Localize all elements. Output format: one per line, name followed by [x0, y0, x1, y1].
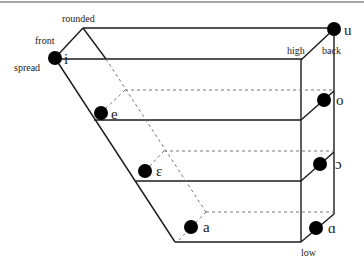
- vowel-dot-u: [327, 22, 341, 36]
- vowel-dot-a: [184, 220, 198, 234]
- vowel-dot-open-e: [138, 164, 152, 178]
- vowel-label-e: e: [111, 106, 118, 122]
- label-front: front: [35, 35, 55, 46]
- label-high: high: [287, 45, 305, 56]
- label-rounded: rounded: [62, 13, 95, 24]
- vowel-label-o: o: [336, 92, 344, 108]
- label-spread: spread: [14, 62, 40, 73]
- vowel-label-script-a: ɑ: [328, 220, 336, 236]
- vowel-diagram: rounded front spread high back low i u e…: [0, 0, 364, 268]
- vowel-label-i: i: [64, 51, 68, 67]
- label-low: low: [301, 247, 317, 258]
- vowel-dot-i: [48, 51, 62, 65]
- vowel-dot-o: [317, 93, 331, 107]
- dashed-edges: [101, 59, 334, 242]
- vowel-label-a: a: [203, 219, 210, 235]
- vowel-label-u: u: [344, 22, 352, 38]
- vowel-dot-script-a: [309, 221, 323, 235]
- vowel-label-open-e: ɛ: [156, 163, 162, 179]
- vowel-dot-open-o: [313, 157, 327, 171]
- vowel-dot-e: [94, 106, 108, 120]
- vowel-label-open-o: ɔ: [335, 156, 342, 172]
- solid-edges: [55, 28, 334, 242]
- label-back: back: [322, 45, 341, 56]
